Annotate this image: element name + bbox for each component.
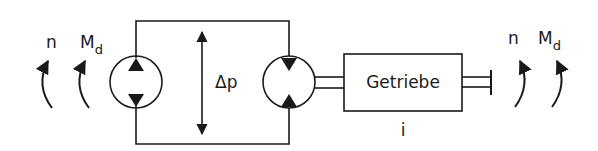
hydraulic-pump-icon: [110, 56, 162, 108]
left-speed-label: n: [46, 32, 57, 52]
hydrostatic-drive-diagram: n Md Δp Getriebe i: [0, 0, 598, 151]
hydraulic-motor-icon: [263, 56, 315, 108]
right-speed-arrow-icon: [515, 61, 524, 107]
right-torque-arrow-icon: [552, 61, 561, 107]
gearbox-label: Getriebe: [366, 72, 440, 92]
left-torque-arrow-icon: [79, 61, 89, 108]
hydraulic-circuit: [136, 21, 289, 144]
right-torque-label: Md: [538, 28, 561, 53]
input-shaft: [315, 77, 344, 88]
pressure-difference-label: Δp: [215, 72, 237, 92]
gear-ratio-label: i: [401, 120, 406, 140]
output-shaft: [462, 70, 491, 95]
right-speed-label: n: [508, 28, 519, 48]
left-torque-label: Md: [80, 32, 103, 57]
left-speed-arrow-icon: [42, 61, 52, 108]
